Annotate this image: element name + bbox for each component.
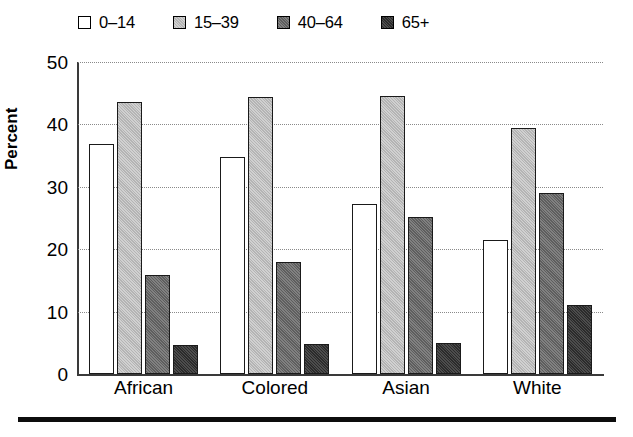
y-tick-label: 40 bbox=[30, 115, 68, 134]
x-axis-labels: AfricanColoredAsianWhite bbox=[78, 378, 603, 397]
bar bbox=[89, 144, 114, 374]
bar bbox=[567, 305, 592, 374]
x-axis-label: Asian bbox=[341, 378, 472, 397]
legend-swatch-icon-65-plus bbox=[381, 16, 394, 29]
legend-item-15-39: 15–39 bbox=[173, 14, 239, 31]
bar bbox=[352, 204, 377, 374]
bar bbox=[117, 102, 142, 374]
bar bbox=[220, 157, 245, 374]
y-axis-title: Percent bbox=[2, 108, 22, 170]
legend-label-15-39: 15–39 bbox=[194, 14, 239, 31]
bar-group bbox=[472, 62, 603, 374]
legend-item-65-plus: 65+ bbox=[381, 14, 429, 31]
bar bbox=[408, 217, 433, 374]
x-axis-label: Colored bbox=[209, 378, 340, 397]
bar bbox=[483, 240, 508, 374]
bar bbox=[173, 345, 198, 374]
bar-group bbox=[78, 62, 209, 374]
bar bbox=[145, 275, 170, 374]
y-tick-label: 30 bbox=[30, 178, 68, 197]
bar bbox=[248, 97, 273, 374]
plot-area bbox=[78, 62, 603, 374]
bottom-horizontal-rule bbox=[18, 417, 616, 422]
chart-legend: 0–14 15–39 40–64 65+ bbox=[78, 11, 429, 33]
bar bbox=[304, 344, 329, 374]
bar bbox=[539, 193, 564, 374]
y-tick-label: 0 bbox=[30, 365, 68, 384]
legend-item-40-64: 40–64 bbox=[277, 14, 343, 31]
x-axis-line bbox=[77, 374, 604, 376]
legend-item-0-14: 0–14 bbox=[78, 14, 135, 31]
bar-groups bbox=[78, 62, 603, 374]
bar bbox=[276, 262, 301, 374]
legend-swatch-icon-15-39 bbox=[173, 16, 186, 29]
y-tick-label: 10 bbox=[30, 303, 68, 322]
x-axis-label: African bbox=[78, 378, 209, 397]
y-tick-label: 50 bbox=[30, 53, 68, 72]
legend-label-65-plus: 65+ bbox=[402, 14, 429, 31]
bar bbox=[380, 96, 405, 374]
x-axis-label: White bbox=[472, 378, 603, 397]
legend-label-0-14: 0–14 bbox=[99, 14, 135, 31]
bar-group bbox=[341, 62, 472, 374]
legend-swatch-icon-40-64 bbox=[277, 16, 290, 29]
bar-group bbox=[209, 62, 340, 374]
legend-swatch-icon-0-14 bbox=[78, 16, 91, 29]
legend-label-40-64: 40–64 bbox=[298, 14, 343, 31]
bar bbox=[436, 343, 461, 374]
bar bbox=[511, 128, 536, 374]
y-tick-label: 20 bbox=[30, 240, 68, 259]
bar-chart-figure: 0–14 15–39 40–64 65+ Percent 01020304050… bbox=[0, 0, 633, 437]
